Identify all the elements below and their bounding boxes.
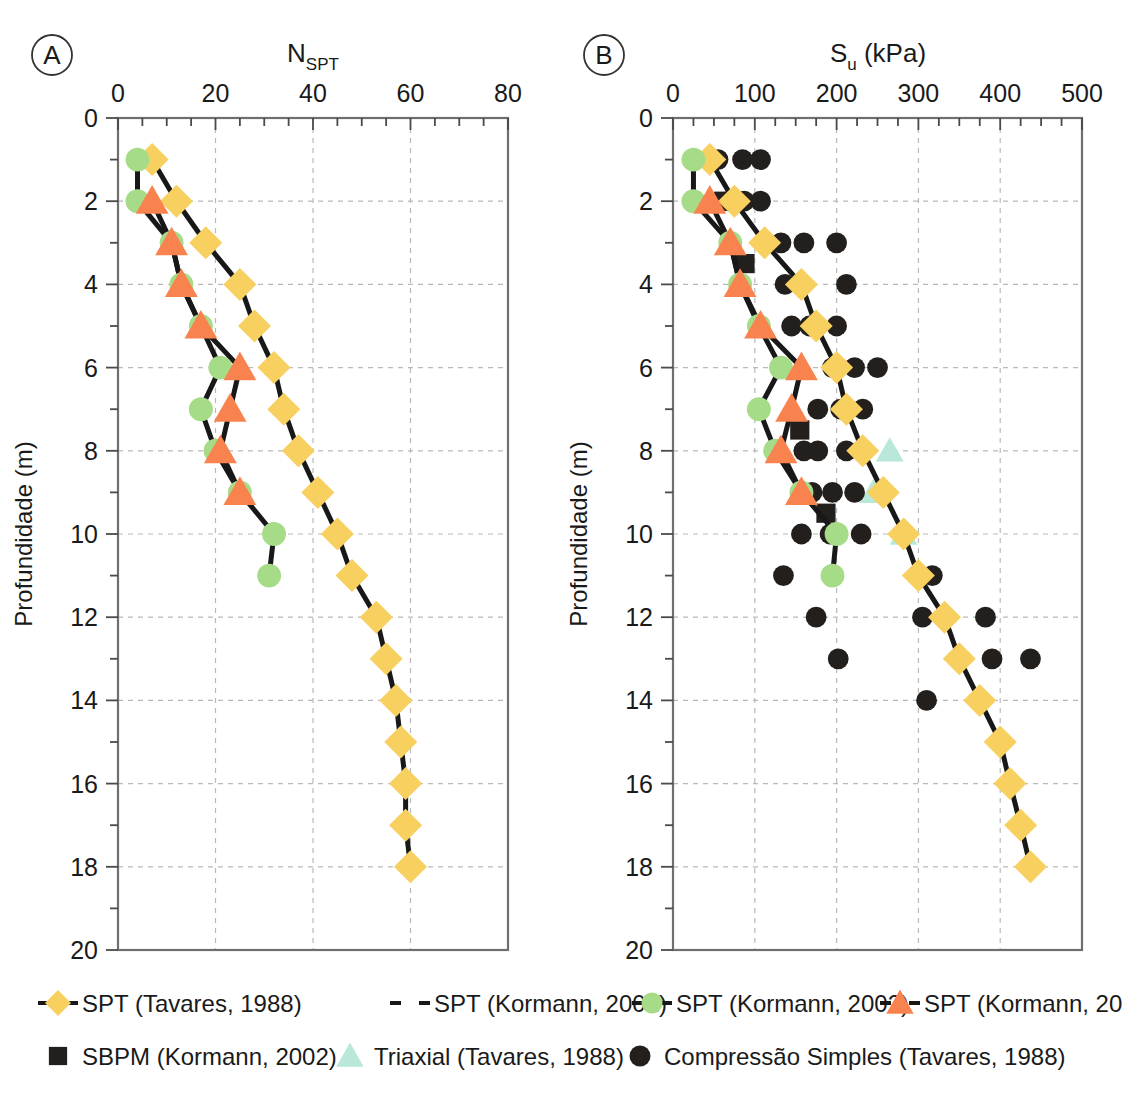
- triangle-marker: [876, 437, 904, 461]
- diamond-marker: [1014, 850, 1047, 883]
- circle-marker: [916, 690, 937, 711]
- y-tick-label: 16: [70, 770, 98, 798]
- diamond-marker: [928, 601, 961, 634]
- diamond-marker: [389, 767, 422, 800]
- circle-marker: [1020, 648, 1041, 669]
- circle-marker: [750, 191, 771, 212]
- y-tick-label: 8: [84, 437, 98, 465]
- circle-marker: [807, 399, 828, 420]
- y-tick-label: 6: [639, 354, 653, 382]
- x-axis-title: Su (kPa): [830, 38, 926, 74]
- circle-marker: [828, 648, 849, 669]
- y-axis-title: Profundidade (m): [565, 441, 592, 626]
- legend-item-label: Triaxial (Tavares, 1988): [374, 1043, 624, 1070]
- circle-marker: [773, 565, 794, 586]
- circle-marker: [747, 397, 771, 421]
- series-polyline: [138, 160, 275, 576]
- square-marker-icon: [49, 1047, 67, 1065]
- circle-marker: [867, 357, 888, 378]
- legend-item[interactable]: SPT (Kormann, 2002): [880, 990, 1122, 1017]
- y-tick-label: 2: [639, 187, 653, 215]
- y-tick-label: 18: [625, 853, 653, 881]
- y-tick-label: 10: [625, 520, 653, 548]
- legend-item[interactable]: SPT (Tavares, 1988): [38, 990, 302, 1017]
- y-tick-label: 4: [84, 270, 98, 298]
- y-tick-label: 10: [70, 520, 98, 548]
- diamond-marker: [336, 559, 369, 592]
- circle-marker: [975, 607, 996, 628]
- diamond-marker: [370, 642, 403, 675]
- legend-item-label: SPT (Kormann, 2002): [676, 990, 909, 1017]
- legend-item-label: SBPM (Kormann, 2002): [82, 1043, 337, 1070]
- circle-marker: [257, 564, 281, 588]
- diamond-marker: [301, 476, 334, 509]
- triangle-marker: [214, 393, 247, 422]
- x-tick-label: 40: [299, 79, 327, 107]
- y-tick-label: 20: [70, 936, 98, 964]
- circle-marker: [732, 149, 753, 170]
- legend-item[interactable]: Triaxial (Tavares, 1988): [336, 1043, 624, 1070]
- y-tick-label: 12: [625, 603, 653, 631]
- panel-A: ANSPTProfundidade (m)0204060800246810121…: [10, 35, 522, 964]
- x-tick-label: 500: [1061, 79, 1103, 107]
- circle-marker: [681, 148, 705, 172]
- x-tick-label: 60: [397, 79, 425, 107]
- y-tick-label: 18: [70, 853, 98, 881]
- series-polyline: [152, 160, 410, 867]
- diamond-marker: [820, 351, 853, 384]
- circle-marker: [781, 316, 802, 337]
- chart-canvas: ANSPTProfundidade (m)0204060800246810121…: [0, 0, 1122, 1098]
- diamond-marker: [943, 642, 976, 675]
- circle-marker: [807, 440, 828, 461]
- diamond-marker: [282, 434, 315, 467]
- diamond-marker: [902, 559, 935, 592]
- figure-root: ANSPTProfundidade (m)0204060800246810121…: [0, 0, 1122, 1098]
- y-tick-label: 6: [84, 354, 98, 382]
- x-tick-label: 200: [816, 79, 858, 107]
- circle-marker: [793, 232, 814, 253]
- circle-marker: [836, 274, 857, 295]
- x-tick-label: 100: [734, 79, 776, 107]
- diamond-marker: [887, 518, 920, 551]
- legend-item[interactable]: SBPM (Kormann, 2002): [49, 1043, 337, 1070]
- circle-marker: [844, 482, 865, 503]
- legend-item[interactable]: Compressão Simples (Tavares, 1988): [630, 1043, 1066, 1070]
- series-line-group: [152, 160, 410, 867]
- legend-marker-shape: [336, 1043, 363, 1067]
- y-tick-label: 0: [639, 104, 653, 132]
- circle-marker: [825, 522, 849, 546]
- y-tick-label: 0: [84, 104, 98, 132]
- legend-item[interactable]: SPT (Kormann, 2002): [632, 990, 909, 1017]
- diamond-marker: [267, 393, 300, 426]
- diamond-marker: [379, 684, 412, 717]
- diamond-marker: [984, 726, 1017, 759]
- diamond-marker: [867, 476, 900, 509]
- legend-item-label: Compressão Simples (Tavares, 1988): [664, 1043, 1066, 1070]
- y-tick-label: 2: [84, 187, 98, 215]
- diamond-marker: [800, 310, 833, 343]
- y-tick-label: 16: [625, 770, 653, 798]
- x-tick-label: 0: [111, 79, 125, 107]
- series-line-group: [710, 160, 1031, 867]
- circle-marker: [791, 524, 812, 545]
- panel-B: BSu (kPa)Profundidade (m)010020030040050…: [565, 35, 1103, 964]
- circle-marker: [851, 524, 872, 545]
- circle-marker: [126, 148, 150, 172]
- diamond-marker: [238, 310, 271, 343]
- x-tick-label: 0: [666, 79, 680, 107]
- legend-item-label: SPT (Tavares, 1988): [82, 990, 302, 1017]
- circle-marker: [189, 397, 213, 421]
- diamond-marker: [389, 809, 422, 842]
- legend-marker-shape: [49, 1047, 67, 1065]
- legend-marker-shape: [630, 1046, 651, 1067]
- legend-item-label: SPT (Kormann, 2002): [924, 990, 1122, 1017]
- circle-marker: [806, 607, 827, 628]
- circle-marker-icon: [630, 1046, 651, 1067]
- y-tick-label: 14: [625, 686, 653, 714]
- diamond-marker: [963, 684, 996, 717]
- legend-item[interactable]: SPT (Kormann, 2002): [390, 990, 667, 1017]
- panel-tag-label: B: [595, 40, 612, 70]
- triangle-marker: [775, 393, 808, 422]
- panel-tag-label: A: [43, 40, 61, 70]
- triangle-marker-icon: [336, 1043, 363, 1067]
